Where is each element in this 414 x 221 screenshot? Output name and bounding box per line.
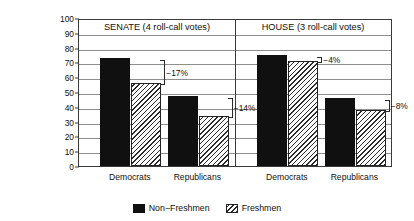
- difference-annotation: −8%: [391, 101, 408, 111]
- y-axis-tick-label: 40: [51, 103, 74, 113]
- y-axis-tick-label: 90: [51, 29, 74, 39]
- legend-label-freshmen: Freshmen: [242, 203, 282, 213]
- legend-item-freshmen: Freshmen: [226, 203, 282, 213]
- bar-non-freshmen: [257, 55, 287, 166]
- bar-non-freshmen: [325, 98, 355, 166]
- bar-freshmen: [199, 116, 229, 166]
- difference-brace: [385, 100, 390, 112]
- y-axis-tick-label: 80: [51, 44, 74, 54]
- x-axis-tick-label: Republicans: [331, 172, 378, 182]
- chart-legend: Non−Freshmen Freshmen: [0, 203, 414, 213]
- y-axis-tick-label: 50: [51, 88, 74, 98]
- difference-annotation: −14%: [234, 103, 256, 113]
- plot-area: SENATE (4 roll-call votes) HOUSE (3 roll…: [78, 19, 392, 167]
- bar-freshmen: [356, 110, 386, 166]
- difference-brace: [160, 60, 165, 85]
- y-axis-tick-label: 0: [51, 162, 74, 172]
- legend-item-non-freshmen: Non−Freshmen: [133, 203, 210, 213]
- x-axis-tick-label: Republicans: [174, 172, 221, 182]
- chart-figure: % of Votes in Support of Administration …: [0, 0, 414, 221]
- y-axis-label: % of Votes in Support of Administration …: [14, 18, 54, 168]
- difference-brace: [228, 98, 233, 119]
- legend-label-non-freshmen: Non−Freshmen: [149, 203, 210, 213]
- legend-swatch-non-freshmen: [133, 204, 145, 213]
- bar-non-freshmen: [100, 58, 130, 166]
- difference-annotation: −17%: [166, 68, 188, 78]
- difference-annotation: −4%: [323, 55, 340, 65]
- y-axis-tick-label: 10: [51, 147, 74, 157]
- x-axis-tick-label: Democrats: [266, 172, 308, 182]
- y-axis-tick-label: 60: [51, 73, 74, 83]
- panel-divider: [235, 20, 236, 166]
- x-axis-tick-label: Democrats: [109, 172, 151, 182]
- bar-non-freshmen: [168, 96, 198, 166]
- bar-freshmen: [288, 61, 318, 166]
- legend-swatch-freshmen: [226, 204, 238, 213]
- y-axis-tick-label: 100: [51, 14, 74, 24]
- panel-title-house: HOUSE (3 roll-call votes): [235, 22, 391, 32]
- bar-freshmen: [131, 83, 161, 166]
- difference-brace: [317, 57, 322, 63]
- y-axis-tick-label: 70: [51, 58, 74, 68]
- y-axis-tick-label: 30: [51, 118, 74, 128]
- y-axis-tick-label: 20: [51, 132, 74, 142]
- panel-title-senate: SENATE (4 roll-call votes): [79, 22, 235, 32]
